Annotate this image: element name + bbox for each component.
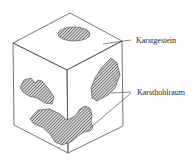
cavity-leader-line-upper	[111, 92, 131, 93]
crescent-cavity	[30, 106, 93, 145]
rock-label: Karstgestein	[136, 36, 176, 45]
cavities	[20, 27, 120, 145]
left-face-cavity	[20, 78, 54, 104]
cube-top-face	[13, 13, 122, 70]
cavity-label: Karsthohlraum	[137, 88, 186, 97]
right-face-cavity	[91, 58, 120, 101]
top-cavity	[58, 27, 90, 41]
karst-block-diagram: Karstgestein Karsthohlraum	[0, 0, 196, 163]
